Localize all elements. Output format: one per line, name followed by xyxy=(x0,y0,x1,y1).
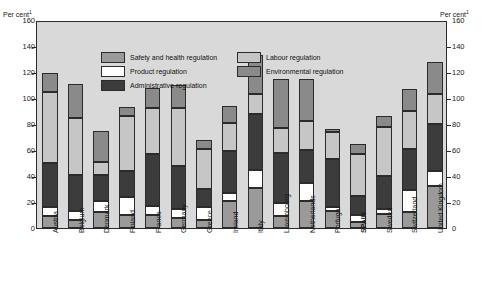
bar-segment xyxy=(299,121,315,150)
legend-swatch-labour xyxy=(237,52,261,63)
bar-segment xyxy=(145,108,161,154)
bar-segment xyxy=(402,149,418,191)
y-tick-label-right: 100 xyxy=(452,95,484,103)
legend-label-admin: Administrative regulation xyxy=(130,82,207,89)
y-tick-mark-right xyxy=(447,99,451,100)
bar-segment xyxy=(325,132,341,159)
bar-segment xyxy=(171,108,187,165)
bar-segment xyxy=(376,176,392,209)
x-axis-label-france: France xyxy=(155,211,162,233)
bar-segment xyxy=(171,166,187,209)
y-tick-label-left: 140 xyxy=(0,43,35,51)
y-tick-label-left: 80 xyxy=(0,121,35,129)
x-axis-label-austria: Austria xyxy=(52,211,59,233)
legend-label-product: Product regulation xyxy=(130,68,187,75)
x-axis-label-luxembourg: Luxembourg xyxy=(283,194,290,233)
x-axis-label-switzerland: Switzerland xyxy=(411,197,418,233)
y-tick-label-right: 120 xyxy=(452,69,484,77)
bar-segment xyxy=(376,116,392,126)
y-tick-label-left: 0 xyxy=(0,225,35,233)
bar-segment xyxy=(93,131,109,162)
legend-swatch-admin xyxy=(101,80,125,91)
y-tick-mark-right xyxy=(447,125,451,126)
x-axis-label-denmark: Denmark xyxy=(103,205,110,233)
y-tick-label-right: 20 xyxy=(452,199,484,207)
legend-label-labour: Labour regulation xyxy=(266,54,321,61)
bar-segment xyxy=(68,84,84,118)
y-tick-label-right: 40 xyxy=(452,173,484,181)
x-axis-label-portugal: Portugal xyxy=(334,207,341,233)
bar-segment xyxy=(42,92,58,164)
y-tick-mark-right xyxy=(447,177,451,178)
bar-segment xyxy=(119,107,135,116)
bar-segment xyxy=(222,151,238,193)
y-tick-mark-right xyxy=(447,47,451,48)
chart-legend: Safety and health regulationLabour regul… xyxy=(101,52,391,91)
bar-segment xyxy=(196,149,212,189)
legend-swatch-safety xyxy=(101,52,125,63)
y-tick-label-right: 80 xyxy=(452,121,484,129)
bar-segment xyxy=(196,140,212,149)
bar-segment xyxy=(427,62,443,95)
bar-segment xyxy=(196,189,212,207)
y-tick-label-right: 160 xyxy=(452,17,484,25)
legend-item-admin[interactable]: Administrative regulation xyxy=(101,80,229,91)
bar-segment xyxy=(350,154,366,196)
y-tick-label-right: 0 xyxy=(452,225,484,233)
bar-segment xyxy=(248,170,264,188)
legend-swatch-environ xyxy=(237,66,261,77)
bar-segment xyxy=(222,123,238,152)
y-tick-label-right: 140 xyxy=(452,43,484,51)
bar-segment xyxy=(42,163,58,207)
bar-segment xyxy=(350,144,366,154)
bar-segment xyxy=(145,154,161,206)
x-axis-label-italy: Italy xyxy=(257,220,264,233)
bar-segment xyxy=(248,114,264,170)
y-tick-label-left: 120 xyxy=(0,69,35,77)
x-axis-label-netherlands: Netherlands xyxy=(309,195,316,233)
bar-segment xyxy=(119,116,135,171)
x-axis-label-finland: Finland xyxy=(129,210,136,233)
footnote-marker-right: 1 xyxy=(466,9,469,15)
bar-segment xyxy=(273,128,289,153)
y-tick-mark-right xyxy=(447,151,451,152)
legend-item-safety[interactable]: Safety and health regulation xyxy=(101,52,229,63)
bar-segment xyxy=(222,193,238,201)
stacked-bar-chart: Per cent1 Per cent1 16014012010080604020… xyxy=(0,0,484,298)
y-tick-label-left: 60 xyxy=(0,147,35,155)
bar-segment xyxy=(68,118,84,175)
legend-item-environ[interactable]: Environmental regulation xyxy=(237,66,387,77)
y-tick-label-right: 60 xyxy=(452,147,484,155)
legend-label-safety: Safety and health regulation xyxy=(130,54,217,61)
legend-item-product[interactable]: Product regulation xyxy=(101,66,229,77)
bar-segment xyxy=(376,127,392,176)
bar-austria[interactable] xyxy=(42,20,58,228)
bar-segment xyxy=(325,159,341,207)
bar-segment xyxy=(299,150,315,183)
y-tick-label-left: 40 xyxy=(0,173,35,181)
y-tick-label-left: 100 xyxy=(0,95,35,103)
legend-item-labour[interactable]: Labour regulation xyxy=(237,52,387,63)
x-axis-label-united-kingdom: United Kingdom xyxy=(437,183,444,233)
plot-area: Safety and health regulationLabour regul… xyxy=(36,21,447,229)
legend-swatch-product xyxy=(101,66,125,77)
bar-segment xyxy=(427,124,443,171)
bar-segment xyxy=(119,171,135,197)
x-axis-label-spain: SPAIN xyxy=(360,212,367,233)
bar-segment xyxy=(93,175,109,201)
bar-segment xyxy=(325,129,341,132)
legend-label-environ: Environmental regulation xyxy=(266,68,343,75)
x-axis-label-sweden: Sweden xyxy=(386,208,393,233)
x-axis-label-greece: Greece xyxy=(206,210,213,233)
bar-segment xyxy=(248,94,264,114)
y-tick-mark-right xyxy=(447,203,451,204)
footnote-marker-left: 1 xyxy=(29,9,32,15)
bar-segment xyxy=(402,89,418,111)
bar-segment xyxy=(222,106,238,123)
bar-segment xyxy=(42,73,58,91)
bar-belgium[interactable] xyxy=(68,20,84,228)
y-tick-label-left: 20 xyxy=(0,199,35,207)
bar-segment xyxy=(402,111,418,149)
bar-segment xyxy=(93,162,109,175)
bar-segment xyxy=(427,94,443,124)
